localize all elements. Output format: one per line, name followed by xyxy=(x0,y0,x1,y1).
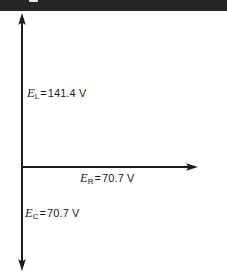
symbol-el: E xyxy=(27,86,35,100)
label-inductive-voltage: EL=141.4 V xyxy=(27,87,86,101)
subscript-er: R xyxy=(88,177,94,186)
label-resistive-voltage: ER=70.7 V xyxy=(80,172,134,186)
equals-ec: = xyxy=(39,207,48,219)
value-ec: 70.7 V xyxy=(47,207,79,219)
symbol-er: E xyxy=(80,171,88,185)
value-el: 141.4 V xyxy=(48,87,87,99)
subscript-el: L xyxy=(35,92,39,101)
symbol-ec: E xyxy=(25,206,33,220)
axes-graphic xyxy=(0,0,227,275)
equals-el: = xyxy=(39,87,48,99)
equals-er: = xyxy=(94,172,103,184)
subscript-ec: C xyxy=(33,212,39,221)
phasor-diagram-figure: EL=141.4 V ER=70.7 V EC=70.7 V xyxy=(0,0,227,275)
value-er: 70.7 V xyxy=(102,172,134,184)
label-capacitive-voltage: EC=70.7 V xyxy=(25,207,79,221)
